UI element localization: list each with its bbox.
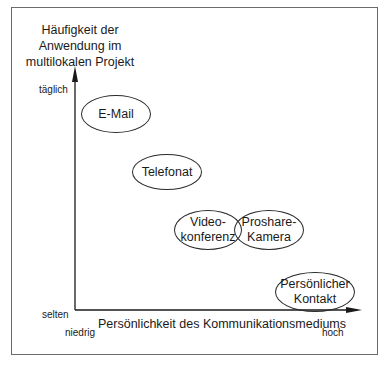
node-proshare-line-2: Kamera <box>242 230 297 245</box>
x-axis-arrow-icon <box>346 307 362 313</box>
node-email: E-Mail <box>81 95 151 133</box>
node-telefonat: Telefonat <box>132 154 202 190</box>
x-axis-title: Persönlichkeit des Kommunikationsmediums <box>98 317 346 331</box>
node-videokonferenz-line-1: Video- <box>181 215 236 230</box>
y-axis-high-label: täglich <box>39 84 68 95</box>
node-telefonat-label: Telefonat <box>142 165 193 180</box>
node-persoenlicher-kontakt: Persönlicher Kontakt <box>275 272 355 312</box>
node-videokonferenz-line-2: konferenz <box>181 230 236 245</box>
node-videokonferenz: Video- konferenz <box>174 210 242 250</box>
node-persoenlich-line-1: Persönlicher <box>280 277 349 292</box>
node-proshare-line-1: Proshare- <box>242 215 297 230</box>
node-email-label: E-Mail <box>98 107 133 122</box>
y-axis-arrow-icon <box>72 66 78 82</box>
node-persoenlich-line-2: Kontakt <box>280 292 349 307</box>
y-axis-low-label: selten <box>42 309 69 320</box>
node-proshare-kamera: Proshare- Kamera <box>234 210 304 250</box>
x-axis-low-label: niedrig <box>65 327 95 338</box>
